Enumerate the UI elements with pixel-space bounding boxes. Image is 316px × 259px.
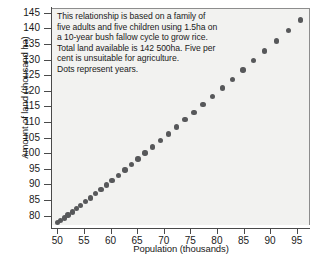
- y-tick-label: 130: [0, 55, 40, 65]
- y-tick-label: 90: [0, 179, 40, 189]
- y-tick-label: 135: [0, 39, 40, 49]
- y-tick-label: 105: [0, 133, 40, 143]
- y-tick-label: 120: [0, 86, 40, 96]
- data-point: [135, 156, 140, 161]
- x-tick-mark: [297, 228, 298, 234]
- y-axis-line: [51, 7, 52, 229]
- y-tick-label: 115: [0, 101, 40, 111]
- y-tick-label: 125: [0, 70, 40, 80]
- y-tick-mark: [44, 216, 51, 217]
- annotation-line: cent is unsuitable for agriculture.: [57, 53, 237, 64]
- y-tick-label: 80: [0, 211, 40, 221]
- data-point: [230, 77, 235, 82]
- x-tick-mark: [57, 228, 58, 234]
- data-point: [174, 124, 179, 129]
- y-tick-label: 110: [0, 117, 40, 127]
- data-point: [142, 150, 147, 155]
- data-point: [220, 85, 225, 90]
- x-tick-mark: [137, 228, 138, 234]
- data-point: [88, 195, 93, 200]
- x-tick-mark: [270, 228, 271, 234]
- y-tick-mark: [44, 44, 51, 45]
- annotation-line: This relationship is based on a family o…: [57, 11, 237, 22]
- y-tick-mark: [44, 200, 51, 201]
- y-tick-mark: [44, 169, 51, 170]
- population-land-scatter-figure: Amount of land (thousand ha) 80859095100…: [0, 0, 316, 259]
- y-tick-mark: [44, 138, 51, 139]
- data-point: [122, 167, 127, 172]
- x-tick-mark: [190, 228, 191, 234]
- y-tick-label: 145: [0, 8, 40, 18]
- annotation-line: five adults and five children using 1.5h…: [57, 22, 237, 33]
- y-tick-label: 140: [0, 23, 40, 33]
- data-point: [240, 67, 245, 72]
- y-tick-label: 100: [0, 148, 40, 158]
- annotation-line: Total land available is 142 500ha. Five …: [57, 43, 237, 54]
- x-tick-mark: [84, 228, 85, 234]
- y-tick-mark: [44, 122, 51, 123]
- data-point: [98, 187, 103, 192]
- data-point: [200, 102, 205, 107]
- x-tick-mark: [217, 228, 218, 234]
- y-tick-mark: [44, 13, 51, 14]
- y-tick-mark: [44, 106, 51, 107]
- x-axis-line: [51, 228, 310, 229]
- y-tick-mark: [44, 60, 51, 61]
- y-tick-label: 85: [0, 195, 40, 205]
- annotation-line: a 10-year bush fallow cycle to grow rice…: [57, 32, 237, 43]
- data-point: [150, 144, 155, 149]
- y-tick-mark: [44, 75, 51, 76]
- y-tick-label: 95: [0, 164, 40, 174]
- x-tick-mark: [111, 228, 112, 234]
- data-point: [109, 178, 114, 183]
- data-point: [191, 110, 196, 115]
- chart-annotation-text: This relationship is based on a family o…: [57, 11, 237, 75]
- annotation-line: Dots represent years.: [57, 64, 237, 75]
- data-point: [274, 38, 279, 43]
- y-tick-mark: [44, 28, 51, 29]
- y-tick-mark: [44, 184, 51, 185]
- x-tick-mark: [164, 228, 165, 234]
- data-point: [298, 17, 303, 22]
- y-tick-mark: [44, 91, 51, 92]
- x-axis-title: Population (thousands): [52, 243, 310, 254]
- data-point: [166, 131, 171, 136]
- data-point: [104, 182, 109, 187]
- x-tick-mark: [244, 228, 245, 234]
- y-tick-mark: [44, 153, 51, 154]
